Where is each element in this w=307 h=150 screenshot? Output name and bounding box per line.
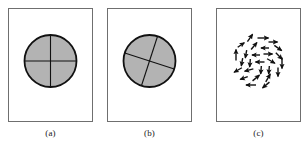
arrow-24	[253, 75, 260, 81]
caption-c: (c)	[216, 128, 301, 139]
arrow-14	[250, 59, 251, 67]
arrow-25	[266, 74, 271, 82]
arrow-16	[267, 59, 275, 64]
panel-b	[107, 8, 192, 122]
arrow-12	[276, 53, 282, 59]
arrow-7	[274, 45, 281, 50]
arrow-18	[234, 68, 242, 73]
caption-a: (a)	[8, 128, 93, 139]
arrow-1	[247, 34, 252, 41]
arrow-13	[241, 58, 242, 66]
arrow-27	[263, 82, 270, 88]
arrow-19	[245, 69, 254, 71]
arrow-5	[251, 43, 257, 50]
figure-container: (a) (b) (c)	[0, 0, 307, 150]
arrow-field	[234, 34, 282, 88]
panel-a	[8, 8, 93, 122]
arrow-21	[269, 66, 270, 74]
panel-c	[216, 8, 301, 122]
panel-c-graphic	[216, 8, 301, 122]
arrow-9	[245, 50, 246, 58]
panel-b-graphic	[107, 8, 192, 122]
arrow-4	[238, 43, 245, 48]
caption-b: (b)	[107, 128, 192, 139]
arrow-20	[261, 66, 262, 74]
arrow-23	[240, 77, 248, 80]
panel-a-graphic	[8, 8, 93, 122]
